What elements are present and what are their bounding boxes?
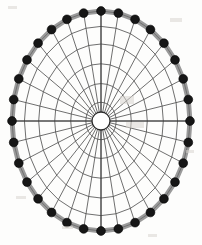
radial-spoke-1 [103, 13, 119, 112]
radial-spoke-3 [106, 30, 150, 114]
rim-bead-29 [47, 25, 56, 34]
radial-spoke-17 [84, 130, 100, 229]
radial-spoke-15 [103, 130, 119, 229]
rim-bead-10 [179, 159, 188, 168]
rim-bead-5 [171, 55, 180, 64]
rim-bead-16 [97, 227, 106, 236]
rim-bead-3 [146, 25, 155, 34]
rim-bead-24 [8, 117, 17, 126]
rim-bead-30 [63, 15, 72, 24]
rim-bead-7 [184, 95, 193, 104]
rim-bead-15 [114, 224, 123, 233]
rim-bead-6 [179, 75, 188, 84]
rim-bead-18 [63, 218, 72, 227]
radial-spoke-31 [84, 13, 100, 112]
radial-spoke-29 [52, 30, 96, 114]
center-hub [92, 112, 110, 130]
rim-bead-20 [34, 194, 43, 203]
rim-bead-11 [171, 178, 180, 187]
rim-bead-13 [146, 208, 155, 217]
rim-bead-1 [114, 9, 123, 18]
radial-spoke-13 [106, 128, 150, 212]
rim-bead-25 [9, 95, 18, 104]
rim-bead-2 [131, 15, 140, 24]
rim-bead-19 [47, 208, 56, 217]
hub-circle [92, 112, 110, 130]
rim-bead-17 [79, 224, 88, 233]
rim-bead-4 [160, 39, 169, 48]
rim-bead-26 [14, 75, 23, 84]
rim-bead-9 [184, 138, 193, 147]
rim-bead-8 [186, 117, 195, 126]
rim-bead-22 [14, 159, 23, 168]
rim-bead-31 [79, 9, 88, 18]
radial-spoke-19 [52, 128, 96, 212]
rim-bead-0 [97, 7, 106, 16]
rim-bead-23 [9, 138, 18, 147]
rim-bead-27 [23, 55, 32, 64]
rim-bead-21 [23, 178, 32, 187]
figure-canvas: Elliptical spoked wheel with beaded rim … [0, 0, 202, 245]
rim-bead-28 [34, 39, 43, 48]
wheel-diagram-svg [0, 0, 202, 245]
rim-bead-14 [131, 218, 140, 227]
rim-bead-12 [160, 194, 169, 203]
